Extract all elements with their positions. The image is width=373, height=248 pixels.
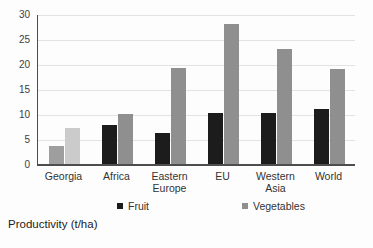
bar-fruit-africa <box>102 125 117 165</box>
y-tick-label-30: 30 <box>0 9 30 21</box>
bar-group-world <box>303 15 356 165</box>
bar-vegetables-world <box>330 69 345 165</box>
category-label-africa: Africa <box>90 171 143 183</box>
bar-fruit-georgia <box>49 146 64 165</box>
legend-label-fruit: Fruit <box>128 200 149 212</box>
bar-fruit-eastern-europe <box>155 133 170 165</box>
legend-item-fruit: Fruit <box>117 200 149 212</box>
y-tick-label-15: 15 <box>0 84 30 96</box>
x-axis-line <box>37 164 355 166</box>
bar-vegetables-eu <box>224 24 239 165</box>
legend-label-vegetables: Vegetables <box>253 200 305 212</box>
bar-fruit-world <box>314 109 329 165</box>
bar-chart: Fruit Vegetables Productivity (t/ha) 051… <box>0 0 373 248</box>
bar-fruit-western-asia <box>261 113 276 166</box>
category-label-eu: EU <box>196 171 249 183</box>
y-tick-label-20: 20 <box>0 59 30 71</box>
y-tick-label-10: 10 <box>0 109 30 121</box>
bar-fruit-eu <box>208 113 223 165</box>
bar-vegetables-africa <box>118 114 133 165</box>
bar-group-georgia <box>38 15 91 165</box>
category-label-world: World <box>302 171 355 183</box>
bar-group-eu <box>197 15 250 165</box>
bar-vegetables-eastern-europe <box>171 68 186 166</box>
bar-vegetables-georgia <box>65 128 80 166</box>
plot-area <box>37 15 355 165</box>
y-tick-label-25: 25 <box>0 34 30 46</box>
bar-group-western-asia <box>250 15 303 165</box>
y-tick-label-5: 5 <box>0 134 30 146</box>
legend-item-vegetables: Vegetables <box>242 200 305 212</box>
category-label-western-asia: Western Asia <box>249 171 302 194</box>
bar-group-africa <box>91 15 144 165</box>
category-label-eastern-europe: Eastern Europe <box>143 171 196 194</box>
bar-group-eastern-europe <box>144 15 197 165</box>
fruit-swatch-icon <box>117 203 123 209</box>
category-label-georgia: Georgia <box>37 171 90 183</box>
y-tick-label-0: 0 <box>0 159 30 171</box>
bar-vegetables-western-asia <box>277 49 292 166</box>
vegetables-swatch-icon <box>242 203 248 209</box>
chart-title: Productivity (t/ha) <box>8 218 97 230</box>
